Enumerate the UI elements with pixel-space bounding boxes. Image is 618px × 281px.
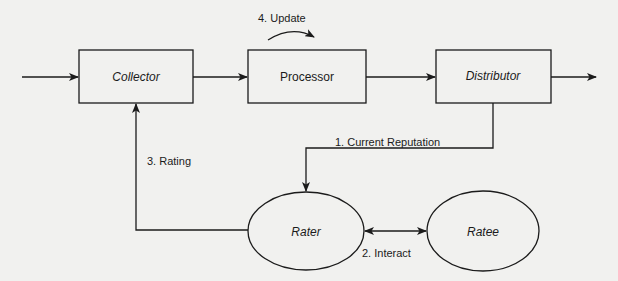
collector-label: Collector — [112, 71, 159, 83]
ratee-label: Ratee — [467, 226, 499, 238]
update-label: 4. Update — [258, 13, 306, 24]
distributor-label: Distributor — [466, 70, 521, 82]
rater-label: Rater — [291, 226, 320, 238]
current-reputation-label: 1. Current Reputation — [335, 137, 440, 148]
rating-label: 3. Rating — [147, 156, 191, 167]
interact-label: 2. Interact — [362, 248, 411, 259]
processor-label: Processor — [280, 71, 334, 83]
rating-arrow — [136, 104, 248, 230]
update-arrow — [268, 32, 314, 40]
scanned-page: Collector Processor Distributor Rater Ra… — [0, 0, 618, 281]
